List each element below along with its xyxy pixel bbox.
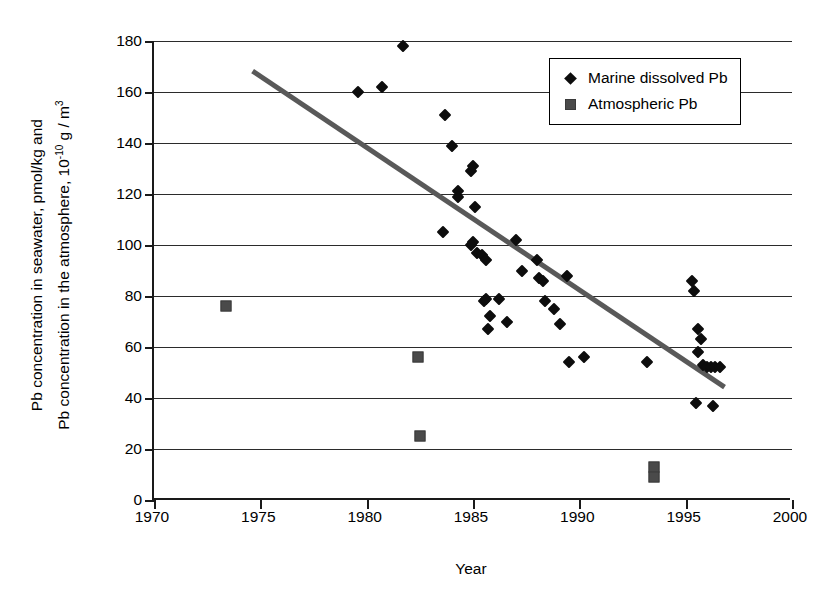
legend-item-atmospheric: Atmospheric Pb — [559, 91, 728, 117]
gridline — [154, 143, 792, 144]
x-axis-title: Year — [152, 560, 790, 578]
pb-concentration-scatter-chart: Pb concentration in seawater, pmol/kg an… — [0, 0, 838, 600]
chart-legend: Marine dissolved Pb Atmospheric Pb — [549, 58, 741, 125]
diamond-marker-icon — [559, 74, 581, 83]
data-point-diamond — [516, 264, 529, 277]
data-point-diamond — [501, 315, 514, 328]
y-tick-mark — [145, 245, 154, 247]
data-point-diamond — [547, 302, 560, 315]
x-tick-label: 1995 — [654, 508, 714, 526]
y-tick-mark — [145, 92, 154, 94]
data-point-square — [412, 352, 423, 363]
y-axis-title-exponent: -10 — [54, 145, 65, 159]
square-marker-icon — [559, 99, 581, 110]
data-point-diamond — [439, 109, 452, 122]
y-tick-mark — [145, 449, 154, 451]
y-tick-mark — [145, 194, 154, 196]
y-tick-label: 120 — [98, 185, 142, 203]
gridline — [154, 449, 792, 450]
y-tick-label: 180 — [98, 32, 142, 50]
data-point-diamond — [469, 200, 482, 213]
data-point-square — [221, 301, 232, 312]
data-point-diamond — [641, 356, 654, 369]
data-point-diamond — [554, 318, 567, 331]
y-tick-label: 140 — [98, 134, 142, 152]
data-point-diamond — [437, 226, 450, 239]
y-tick-label: 160 — [98, 83, 142, 101]
data-point-square — [648, 472, 659, 483]
y-tick-label: 80 — [98, 287, 142, 305]
legend-label-atmospheric: Atmospheric Pb — [581, 95, 697, 113]
y-tick-label: 60 — [98, 338, 142, 356]
y-axis-title-line2-post: g / m — [55, 106, 72, 145]
y-tick-label: 0 — [98, 491, 142, 509]
x-tick-label: 1970 — [122, 508, 182, 526]
data-point-diamond — [694, 333, 707, 346]
legend-label-marine: Marine dissolved Pb — [581, 69, 728, 87]
x-tick-label: 1980 — [335, 508, 395, 526]
y-axis-title: Pb concentration in seawater, pmol/kg an… — [25, 5, 75, 525]
y-tick-label: 40 — [98, 389, 142, 407]
y-tick-mark — [145, 41, 154, 43]
x-tick-label: 1985 — [441, 508, 501, 526]
x-tick-label: 1990 — [547, 508, 607, 526]
data-point-diamond — [707, 399, 720, 412]
legend-item-marine: Marine dissolved Pb — [559, 65, 728, 91]
data-point-diamond — [562, 356, 575, 369]
y-tick-mark — [145, 500, 154, 502]
y-axis-title-line2-pre: Pb concentration in the atmosphere, 10 — [55, 159, 72, 430]
gridline — [154, 194, 792, 195]
gridline — [154, 296, 792, 297]
data-point-diamond — [445, 139, 458, 152]
data-point-square — [414, 431, 425, 442]
x-tick-label: 1975 — [228, 508, 288, 526]
y-tick-mark — [145, 143, 154, 145]
y-tick-mark — [145, 398, 154, 400]
y-tick-mark — [145, 296, 154, 298]
data-point-diamond — [577, 351, 590, 364]
y-axis-title-line1: Pb concentration in seawater, pmol/kg an… — [25, 5, 48, 525]
y-tick-label: 20 — [98, 440, 142, 458]
x-tick-label: 2000 — [760, 508, 820, 526]
data-point-diamond — [352, 86, 365, 99]
data-point-diamond — [492, 292, 505, 305]
gridline — [154, 41, 792, 42]
y-axis-title-cubed: 3 — [54, 100, 65, 106]
y-axis-title-line2: Pb concentration in the atmosphere, 10-1… — [48, 5, 75, 525]
data-point-diamond — [482, 323, 495, 336]
y-tick-label: 100 — [98, 236, 142, 254]
y-tick-mark — [145, 347, 154, 349]
data-point-diamond — [484, 310, 497, 323]
